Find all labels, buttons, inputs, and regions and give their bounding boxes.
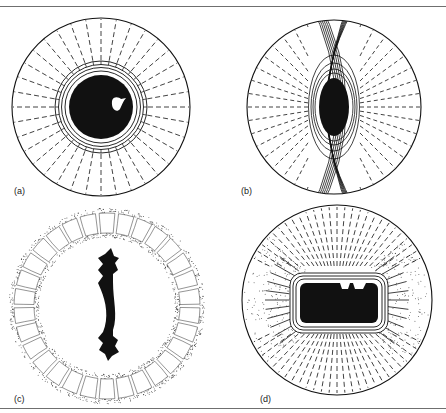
radial-line [405, 258, 420, 266]
radial-line [360, 158, 373, 184]
radial-line [34, 50, 65, 76]
wall-cell [14, 288, 35, 304]
radial-line [71, 151, 85, 190]
band-tick [58, 122, 61, 123]
radial-line [44, 40, 70, 71]
side-line [266, 291, 290, 294]
radial-line [125, 31, 146, 67]
band-tick [61, 128, 64, 130]
radial-line [137, 137, 168, 163]
radial-line [307, 187, 308, 189]
radial-line [142, 63, 178, 84]
radial-line [257, 68, 308, 94]
radial-line [314, 210, 329, 266]
radial-line [360, 143, 385, 177]
radial-line [249, 94, 308, 103]
panel-label-a: (a) [14, 186, 25, 196]
panel-d-rectangular-nucleus [242, 205, 432, 395]
radial-line [360, 187, 361, 189]
band-tick [78, 144, 80, 147]
radial-line [299, 334, 322, 385]
radial-line [264, 56, 308, 88]
radial-line [14, 92, 54, 99]
radial-line [145, 123, 184, 137]
band-tick [138, 128, 141, 130]
radial-line [267, 334, 298, 361]
radial-line [18, 123, 57, 137]
panel-c-cell-ring [9, 208, 205, 404]
wall-cell [99, 213, 115, 233]
radial-line [360, 120, 411, 146]
band-tick [85, 147, 86, 150]
panel-b-elliptical-nucleus [247, 0, 421, 217]
radial-line [86, 153, 93, 193]
wall-cell [80, 376, 98, 398]
radial-line [131, 40, 157, 71]
radial-line [254, 334, 269, 342]
radial-line [360, 334, 389, 377]
radial-line [57, 148, 78, 184]
band-tick [134, 77, 137, 79]
band-tick [93, 149, 94, 152]
band-tick [61, 84, 64, 86]
radial-line [147, 115, 187, 122]
band-tick [122, 67, 124, 70]
wall-cell [116, 214, 134, 236]
wall-cell [99, 379, 115, 399]
radial-line [292, 334, 318, 381]
radial-line [405, 334, 420, 342]
radial-line [273, 233, 305, 266]
radial-line [283, 143, 308, 177]
radial-line [264, 126, 308, 158]
band-tick [93, 62, 94, 65]
radial-line [392, 334, 416, 349]
radial-line [117, 151, 131, 190]
radial-line [360, 223, 389, 266]
radial-line [352, 334, 375, 385]
radial-line [147, 92, 187, 99]
wall-cell [179, 307, 200, 323]
radial-line [314, 334, 329, 390]
side-line [270, 318, 292, 327]
radial-line [254, 258, 269, 266]
panel-label-b: (b) [241, 186, 252, 196]
band-tick [143, 99, 146, 100]
band-tick [122, 144, 124, 147]
band-tick [128, 72, 130, 75]
radial-line [360, 126, 404, 158]
side-line [267, 312, 290, 318]
radial-line [360, 111, 419, 120]
radial-line [25, 131, 61, 152]
radial-line [57, 31, 78, 67]
radial-line [360, 94, 419, 103]
radial-line [117, 24, 131, 63]
radial-line [142, 131, 178, 152]
radial-line [25, 63, 61, 84]
radial-line [352, 215, 375, 266]
band-tick [66, 134, 69, 136]
band-tick [143, 114, 146, 115]
radial-line [360, 56, 404, 88]
band-tick [134, 134, 137, 136]
radial-line [257, 120, 308, 146]
nucleus [319, 78, 349, 136]
radial-line [295, 30, 308, 56]
radial-line [346, 210, 361, 266]
radial-line [295, 158, 308, 184]
radial-line [392, 251, 416, 266]
band-tick [108, 149, 109, 152]
radial-line [346, 334, 361, 390]
radial-line [258, 251, 282, 266]
radial-line [34, 137, 65, 163]
radial-line [370, 334, 402, 367]
band-tick [58, 91, 61, 92]
band-tick [78, 67, 80, 70]
radial-line [71, 24, 85, 63]
radial-line [125, 148, 146, 184]
band-tick [71, 140, 73, 143]
band-tick [141, 122, 144, 123]
radial-line [356, 334, 382, 381]
band-tick [66, 77, 69, 79]
wall-cell [80, 214, 98, 236]
radial-line [145, 77, 184, 91]
